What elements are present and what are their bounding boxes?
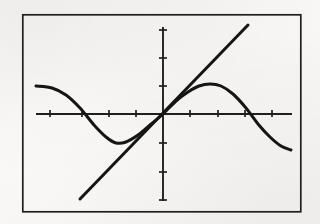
straight-line	[80, 25, 248, 199]
graph-figure	[0, 0, 320, 224]
figure-page	[0, 0, 320, 224]
